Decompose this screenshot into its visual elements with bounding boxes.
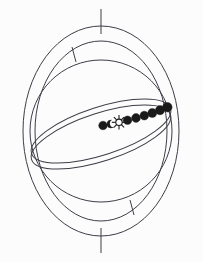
body-4-disc	[123, 116, 132, 125]
armillary-sphere-diagram	[0, 0, 203, 262]
celestial-body-group	[99, 102, 172, 129]
ecliptic-band-upper	[24, 86, 178, 177]
tick-lower-right	[130, 200, 134, 215]
body-9-disc	[163, 102, 173, 112]
ecliptic-band-lower	[24, 92, 178, 183]
celestial-sphere-outline	[30, 60, 172, 202]
body-1-disc	[99, 121, 108, 130]
body-6-disc	[140, 111, 149, 120]
armillary-sphere-canvas	[0, 0, 203, 262]
body-5-disc	[132, 114, 141, 123]
